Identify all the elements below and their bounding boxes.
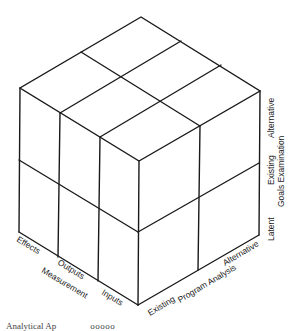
caption-right: ooooo: [90, 321, 115, 331]
cube-diagram: Effects Outputs Measurement Inputs Exist…: [0, 0, 298, 331]
label-existing-goals: Existing: [266, 155, 276, 185]
program-analysis-axis-labels: Existing Program Analysis Alternative: [146, 238, 261, 317]
figure-caption-partial: Analytical Apooooo: [6, 321, 115, 331]
measurement-axis-labels: Effects Outputs Measurement Inputs: [15, 234, 125, 307]
right-face: [138, 91, 260, 305]
caption-left: Analytical Ap: [6, 321, 56, 331]
label-alternative-goals: Alternative: [266, 98, 276, 138]
label-program-analysis: Program Analysis: [176, 262, 238, 305]
label-latent: Latent: [266, 217, 276, 241]
goals-examination-axis-labels: Alternative Existing Goals Examination L…: [266, 98, 286, 241]
top-face: [20, 17, 260, 161]
label-inputs: Inputs: [100, 287, 125, 307]
label-goals-examination: Goals Examination: [276, 135, 286, 207]
